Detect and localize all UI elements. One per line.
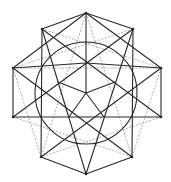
vertex-upper-left	[41, 28, 44, 31]
polyhedron-diagram	[0, 0, 171, 182]
hidden-edge	[13, 117, 132, 157]
visible-edge	[86, 63, 161, 68]
hidden-edge	[132, 68, 161, 157]
vertex-upper-right	[132, 28, 135, 31]
visible-edge	[41, 157, 86, 174]
hidden-edge	[41, 13, 86, 157]
visible-edge	[42, 29, 161, 117]
visible-edge	[86, 93, 104, 117]
visible-edge	[69, 93, 86, 117]
visible-edge	[42, 13, 86, 29]
visible-edge	[132, 29, 133, 157]
visible-edge	[13, 63, 86, 68]
hidden-edge	[42, 29, 161, 68]
vertex-bottom-left	[40, 156, 43, 159]
visible-edge	[58, 82, 86, 93]
vertex-left	[12, 67, 15, 70]
visible-edge	[86, 13, 133, 29]
vertex-right	[160, 67, 163, 70]
vertex-bottom	[85, 173, 88, 176]
vertex-bottom-right	[131, 156, 134, 159]
visible-edge	[13, 13, 86, 68]
vertex-lower-left	[12, 116, 15, 119]
visible-edge	[86, 157, 132, 174]
vertex-lower-right	[160, 116, 163, 119]
visible-edge	[41, 29, 42, 157]
vertex-top	[85, 12, 88, 15]
